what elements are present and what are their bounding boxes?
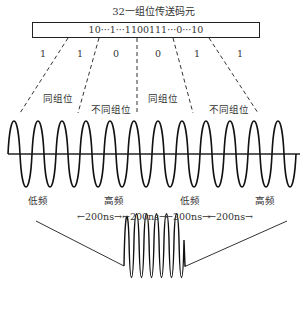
bit-value: 0 (155, 49, 161, 59)
bit-value: 1 (237, 49, 243, 59)
duration-label: ←200ns→ (77, 212, 122, 222)
bit-value: 0 (113, 49, 119, 59)
group-label: 不同组位 (209, 105, 249, 115)
waveform-diagram (0, 0, 307, 315)
pulse-burst (124, 214, 186, 278)
zoom-lines (36, 221, 287, 266)
frequency-label: 高频 (255, 196, 275, 206)
group-label: 不同组位 (91, 105, 131, 115)
bit-value: 1 (194, 49, 200, 59)
frequency-label: 高频 (104, 196, 124, 206)
group-label: 同组位 (148, 94, 178, 104)
group-label: 同组位 (43, 94, 73, 104)
bit-value: 1 (40, 49, 46, 59)
duration-label: ←200ns→ (208, 212, 253, 222)
frequency-label: 低频 (28, 196, 48, 206)
bit-value: 1 (77, 49, 83, 59)
duration-label: ←200ns→ (165, 212, 210, 222)
duration-label: ←200ns→ (122, 212, 167, 222)
frequency-label: 低频 (180, 196, 200, 206)
